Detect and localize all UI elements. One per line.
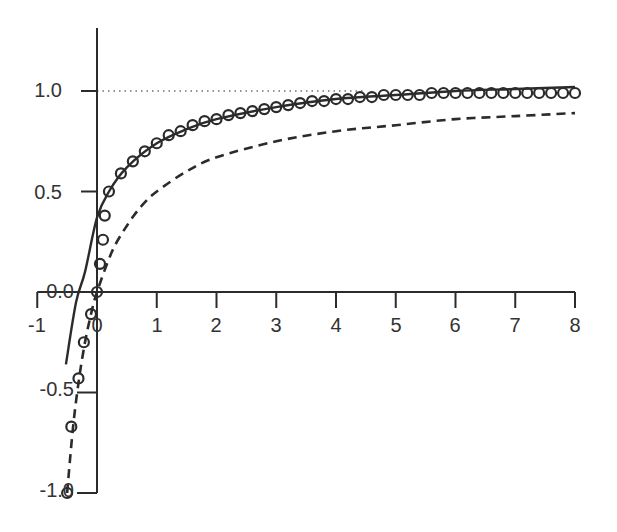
circle-marker (451, 88, 461, 98)
y-tick-label-neg-0.5: -0.5 (40, 378, 74, 400)
circle-marker (534, 88, 544, 98)
x-tick-label-1: 1 (151, 314, 162, 336)
x-tick-label-8: 8 (569, 314, 580, 336)
chart: 1.0 0.5 0.0 -0.5 -1.0 -1 0 1 2 3 4 5 6 7… (0, 0, 617, 532)
circle-marker (570, 88, 580, 98)
x-tick-label-2: 2 (210, 314, 221, 336)
tick-labels: 1.0 0.5 0.0 -0.5 -1.0 -1 0 1 2 3 4 5 6 7… (28, 79, 580, 501)
x-tick-label-7: 7 (509, 314, 520, 336)
solid-series (66, 87, 575, 364)
circle-marker (415, 90, 425, 100)
x-tick-label-5: 5 (390, 314, 401, 336)
circle-marker (100, 211, 110, 221)
y-tick-label-1.0: 1.0 (34, 79, 62, 101)
circle-marker (98, 235, 108, 245)
y-tick-label-0.0: 0.0 (46, 280, 74, 302)
x-tick-label-6: 6 (449, 314, 460, 336)
circle-marker (546, 88, 556, 98)
circle-markers-series (62, 88, 580, 498)
x-tick-label-4: 4 (330, 314, 341, 336)
circle-marker (66, 422, 76, 432)
y-tick-label-0.5: 0.5 (34, 181, 62, 203)
dashed-series (67, 113, 575, 493)
y-tick-label-neg-1.0: -1.0 (40, 479, 74, 501)
x-tick-label-0: 0 (91, 314, 102, 336)
dashed-curve (67, 113, 575, 493)
solid-curve (66, 87, 575, 364)
circle-marker (558, 88, 568, 98)
x-tick-label-3: 3 (270, 314, 281, 336)
x-tick-label-neg-1: -1 (28, 314, 46, 336)
